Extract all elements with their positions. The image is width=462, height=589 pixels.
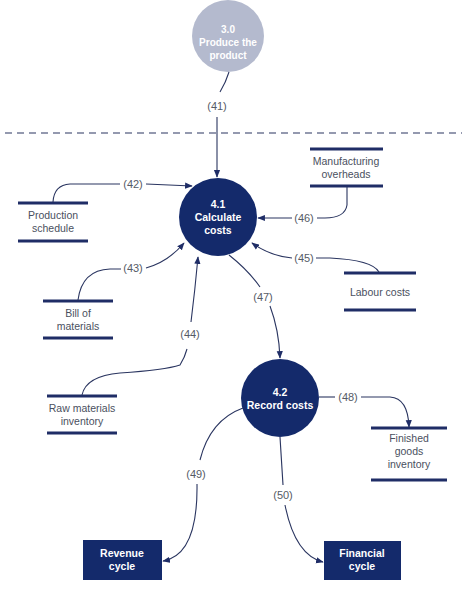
store-label-line1: Raw materials [49,402,116,414]
data-store-manufacturing-overheads[interactable]: Manufacturing overheads [310,149,383,186]
flow-49: (49) [163,408,243,561]
store-label-line2: materials [57,320,100,332]
store-label-line1: Production [28,209,78,221]
flow-41: (41) [207,72,229,177]
store-label-line1: Finished [389,432,429,444]
process-4-1-name-line2: costs [204,224,232,236]
flow-49-line-bottom [163,484,197,561]
flow-50-line-top [280,437,283,485]
flow-43-line-right [146,243,184,268]
process-4-2-circle [241,359,319,437]
store-label-line2: schedule [32,222,74,234]
flow-44-line-bottom [82,349,187,395]
process-3-0-name-line2: product [209,50,247,61]
flow-50-line-bottom [285,505,323,562]
flow-47: (47) [229,255,280,358]
process-4-2[interactable]: 4.2 Record costs [241,359,319,437]
flow-47-line-bottom [270,306,280,358]
financial-cycle-label-line2: cycle [349,560,375,572]
store-label-line3: inventory [388,458,431,470]
data-store-production-schedule[interactable]: Production schedule [18,203,88,241]
flow-45-line-left [252,243,292,258]
store-label-line1: Bill of [65,307,91,319]
process-3-0-id: 3.0 [221,24,235,35]
revenue-cycle-label-line1: Revenue [100,547,144,559]
process-3-0-circle [192,0,264,72]
flow-47-label: (47) [253,291,273,303]
flow-41-label: (41) [207,100,227,112]
data-store-raw-materials-inventory[interactable]: Raw materials inventory [47,396,117,433]
flow-43-line-left [78,269,121,300]
store-label-line2: goods [395,445,424,457]
financial-cycle-label-line1: Financial [339,547,385,559]
process-3-0[interactable]: 3.0 Produce the product [192,0,264,72]
flow-49-line-top [200,408,243,460]
flow-48-line-right [361,397,409,427]
flow-45: (45) [252,243,379,272]
flow-42-line-left [53,184,120,202]
store-label-line2: inventory [61,415,104,427]
flow-48-label: (48) [338,391,358,403]
flow-49-label: (49) [186,468,206,480]
flow-44-line-top [191,257,198,322]
flow-44: (44) [82,257,200,395]
flow-48: (48) [319,391,409,427]
store-label-line2: overheads [321,168,370,180]
process-4-1-id: 4.1 [211,198,226,210]
flow-45-line-right [316,258,379,272]
external-entity-financial-cycle[interactable]: Financial cycle [324,541,401,580]
flow-41-line-top [220,72,229,92]
flow-46-label: (46) [294,212,314,224]
data-store-finished-goods-inventory[interactable]: Finished goods inventory [371,428,447,480]
flow-46-line-right [317,187,347,218]
data-store-labour-costs[interactable]: Labour costs [344,273,416,310]
flow-42-label: (42) [123,178,143,190]
flow-50-label: (50) [273,489,293,501]
store-label-line1: Manufacturing [313,155,380,167]
flow-43-label: (43) [123,262,143,274]
flow-44-label: (44) [180,328,200,340]
flow-42: (42) [53,178,192,202]
flow-43: (43) [78,243,184,300]
process-3-0-name-line1: Produce the [199,37,257,48]
flow-46: (46) [258,187,347,224]
external-entity-revenue-cycle[interactable]: Revenue cycle [83,540,162,580]
flow-47-line-top [229,255,260,287]
data-flow-diagram: 3.0 Produce the product (41) 4.1 Calcula… [0,0,462,589]
flow-42-line-right [146,184,192,186]
data-store-bill-of-materials[interactable]: Bill of materials [43,301,113,338]
process-4-2-name-line1: Record costs [247,399,314,411]
flow-50: (50) [273,437,323,562]
process-4-1-name-line1: Calculate [195,211,242,223]
process-4-1[interactable]: 4.1 Calculate costs [179,178,257,256]
revenue-cycle-label-line2: cycle [109,560,135,572]
process-4-2-id: 4.2 [273,386,288,398]
flow-45-label: (45) [294,252,314,264]
store-label-line1: Labour costs [350,286,410,298]
